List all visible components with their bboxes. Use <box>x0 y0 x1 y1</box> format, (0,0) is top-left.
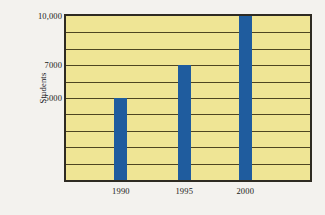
y-axis-tick-label: 5000 <box>45 93 62 103</box>
x-axis-tick-label: 1995 <box>164 186 204 196</box>
y-axis-tick-label: 10,000 <box>38 11 62 21</box>
plot-area <box>64 14 312 182</box>
bars-layer <box>66 16 310 180</box>
y-axis-tick-labels: 5000700010,000 <box>24 0 62 215</box>
bar <box>114 98 127 180</box>
x-axis-tick-label: 1990 <box>101 186 141 196</box>
x-axis-tick-label: 2000 <box>225 186 265 196</box>
bar <box>178 65 191 180</box>
x-axis-tick-labels: 199019952000 <box>64 186 312 204</box>
bar <box>239 16 252 180</box>
bar-chart-figure: Students 5000700010,000 199019952000 <box>0 0 325 215</box>
y-axis-tick-label: 7000 <box>45 60 62 70</box>
